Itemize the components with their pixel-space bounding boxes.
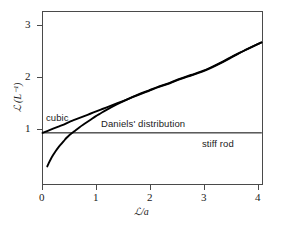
daniels-distribution-label: Daniels' distribution: [101, 118, 185, 129]
x-tick-label-3: 3: [201, 192, 207, 203]
x-axis-title: ℒ/a: [134, 206, 149, 217]
x-tick-marks: [43, 185, 259, 191]
x-tick-label-1: 1: [93, 192, 99, 203]
stiff-rod-label: stiff rod: [202, 138, 234, 149]
y-axis-title: ℒ (L⁻¹): [12, 70, 23, 126]
y-tick-label-1: 1: [25, 123, 31, 134]
y-tick-marks: [37, 26, 43, 130]
cubic-curve-label: cubic: [46, 112, 69, 123]
y-tick-label-2: 2: [25, 71, 31, 82]
x-tick-label-4: 4: [255, 192, 261, 203]
plot-frame: [43, 12, 263, 185]
y-tick-label-3: 3: [25, 19, 31, 30]
x-tick-label-2: 2: [147, 192, 153, 203]
chart-figure: 3 2 1 0 1 2 3 4 ℒ/a ℒ (L⁻¹) cubic Daniel…: [0, 0, 283, 227]
x-tick-label-0: 0: [39, 192, 45, 203]
